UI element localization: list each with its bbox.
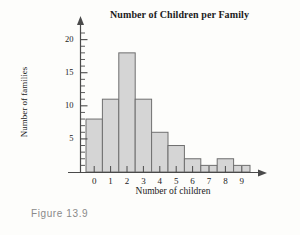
x-axis-title: Number of children (88, 186, 258, 196)
bars-group (86, 53, 250, 172)
x-axis-tick-label: 0 (87, 176, 101, 186)
x-axis-tick-label: 3 (136, 176, 150, 186)
x-axis-arrowhead (258, 170, 267, 177)
y-axis-arrowhead (77, 16, 84, 25)
y-axis-tick-label: 20 (56, 34, 74, 44)
x-axis-tick-label: 8 (218, 176, 232, 186)
y-axis-tick-label: 10 (56, 100, 74, 110)
bar (135, 99, 151, 172)
plot-area: 5101520 0123456789 Number of families Nu… (0, 0, 300, 200)
chart-svg (0, 0, 300, 200)
x-axis-tick-label: 2 (120, 176, 134, 186)
bar (86, 119, 102, 172)
y-axis-title: Number of families (19, 47, 29, 157)
figure-caption: Figure 13.9 (31, 208, 88, 219)
figure-container: Number of Children per Family 5101520 01… (0, 0, 300, 235)
x-axis-tick-label: 1 (104, 176, 118, 186)
y-axis-tick-label: 15 (56, 67, 74, 77)
x-axis-tick-label: 5 (169, 176, 183, 186)
x-axis-tick-label: 6 (186, 176, 200, 186)
bar (102, 99, 118, 172)
x-axis-tick-label: 9 (235, 176, 249, 186)
bar (119, 53, 135, 172)
y-axis-tick-label: 5 (56, 133, 74, 143)
x-axis-tick-label: 7 (202, 176, 216, 186)
x-axis-tick-label: 4 (153, 176, 167, 186)
